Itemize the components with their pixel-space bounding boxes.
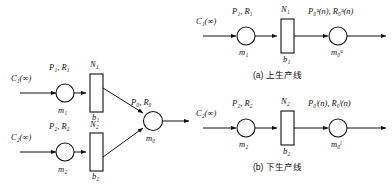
label-buffer2-capacity: N₂: [90, 120, 99, 129]
node-buffer-b1: [90, 74, 103, 112]
label-machine1-name: m₁: [58, 106, 67, 115]
label-source-a: C₁(∞): [196, 17, 216, 26]
label-machine-name-a: m₁: [239, 48, 248, 57]
label-machine-rate-a: P₁, R₁: [232, 7, 253, 16]
label-machine-name-b: m₂: [239, 140, 248, 149]
label-source-c1: C₁(∞): [11, 74, 31, 83]
node-buffer-b2: [90, 133, 103, 171]
label-source-b: C₂(∞): [196, 109, 216, 118]
caption-lower-line: (b) 下生产线: [253, 160, 302, 172]
node-machine-m2-b: [237, 119, 255, 137]
node-machine-m0-lower: [329, 119, 347, 137]
label-merge-name: m₀: [146, 134, 155, 143]
label-machine2-name: m₂: [58, 165, 67, 174]
label-sink-name-b: m₀ˡ: [331, 140, 341, 149]
label-buffer-name-a: b₁: [283, 55, 290, 64]
label-machine2-rate: P₂, R₂: [49, 122, 70, 131]
label-machine1-rate: P₁, R₁: [49, 63, 70, 72]
node-machine-m1: [56, 84, 74, 102]
panel-combined-system: C₁(∞) P₁, R₁ m₁ N₁ b₁ C₂(∞) P₂, R₂ m₂ N₂…: [0, 0, 196, 187]
node-machine-m1-a: [237, 27, 255, 45]
label-merge-rate: P₀, R₀: [131, 98, 152, 107]
node-buffer-b2-b: [281, 111, 294, 145]
node-machine-m0-upper: [329, 27, 347, 45]
label-buffer-capacity-a: N₁: [281, 5, 290, 14]
label-buffer2-name: b₂: [92, 172, 99, 181]
label-buffer-name-b: b₂: [283, 147, 290, 156]
label-buffer1-capacity: N₁: [90, 60, 99, 69]
panel-lower-line: C₂(∞) P₂, R₂ m₂ N₂ b₂ P₀ˡ(n), R₀ˡ(n) m₀ˡ…: [196, 92, 392, 187]
node-machine-m2: [56, 143, 74, 161]
label-buffer-capacity-b: N₂: [281, 97, 290, 106]
figure-root: C₁(∞) P₁, R₁ m₁ N₁ b₁ C₂(∞) P₂, R₂ m₂ N₂…: [0, 0, 392, 187]
label-sink-rate-b: P₀ˡ(n), R₀ˡ(n): [308, 99, 351, 108]
combined-system-wires: [0, 0, 196, 187]
caption-upper-line: (a) 上生产线: [253, 68, 302, 80]
node-machine-m0: [144, 112, 163, 131]
label-machine-rate-b: P₂, R₂: [232, 99, 253, 108]
arrow-buffer2-to-merge: [103, 128, 143, 157]
label-sink-rate-a: P₀ᵘ(n), R₀ᵘ(n): [308, 7, 353, 16]
node-buffer-b1-a: [281, 19, 294, 53]
lower-line-wires: [196, 92, 392, 187]
label-source-c2: C₂(∞): [11, 133, 31, 142]
label-sink-name-a: m₀ᵘ: [331, 48, 343, 57]
panel-upper-line: C₁(∞) P₁, R₁ m₁ N₁ b₁ P₀ᵘ(n), R₀ᵘ(n) m₀ᵘ…: [196, 0, 392, 92]
